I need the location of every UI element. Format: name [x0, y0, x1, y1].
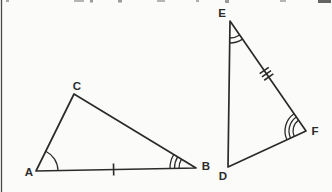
diagram-svg: ABCDEF — [0, 0, 332, 192]
cropped-text-remnant-7 — [225, 0, 229, 3]
vertex-label-B: B — [202, 160, 210, 172]
cropped-text-remnant-3 — [90, 0, 93, 3]
angle-mark-F-arc-2 — [289, 117, 296, 138]
cropped-text-remnant-1 — [6, 0, 9, 2]
angle-mark-B-arc-3 — [170, 155, 174, 169]
cropped-text-remnant-2 — [74, 0, 84, 2]
vertex-label-F: F — [311, 125, 318, 137]
vertex-label-D: D — [219, 170, 227, 182]
angle-mark-E-arc-1 — [230, 35, 240, 38]
angle-mark-B-arc-2 — [175, 157, 178, 169]
angle-mark-A-arc-1 — [46, 151, 58, 170]
scanned-diagram-page: ABCDEF — [0, 0, 332, 192]
angle-mark-B-arc-1 — [179, 159, 181, 168]
cropped-text-remnant-5 — [157, 0, 165, 2]
vertex-label-C: C — [73, 80, 81, 92]
cropped-text-remnant-8 — [280, 0, 286, 2]
cropped-text-remnant-6 — [196, 0, 199, 2]
angle-mark-E-arc-2 — [230, 39, 243, 43]
cropped-text-remnant-9 — [318, 0, 331, 3]
vertex-label-E: E — [218, 7, 226, 19]
vertex-label-A: A — [25, 166, 33, 178]
cropped-text-remnant-4 — [118, 0, 122, 3]
triangle-DEF-outline — [228, 21, 306, 167]
